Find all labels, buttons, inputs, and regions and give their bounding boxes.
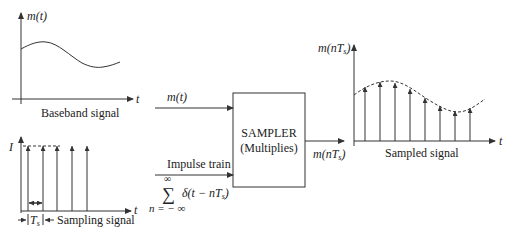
baseband-plot: m(t) t Baseband signal [12, 9, 140, 120]
sampler-box [233, 93, 305, 187]
baseband-caption: Baseband signal [41, 106, 120, 120]
sampler-subtitle: (Multiplies) [240, 141, 297, 155]
sampled-y-label: m(nTs) [318, 41, 350, 56]
period-label: Ts [30, 213, 40, 228]
sampled-caption: Sampled signal [385, 146, 459, 160]
baseband-y-label: m(t) [27, 9, 47, 23]
sampler-output: m(nTs) [305, 141, 345, 162]
sampling-diagram: m(t) t Baseband signal I Ts Sampling sig… [0, 0, 514, 240]
amplitude-label: I [8, 140, 14, 154]
sum-upper-limit: ∞ [164, 173, 171, 184]
delta-expression: δ(t − nTs) [182, 186, 229, 201]
sum-lower-limit: n = − ∞ [149, 202, 186, 214]
sampled-envelope [354, 81, 485, 112]
sampling-x-label: t [134, 203, 138, 217]
sampling-caption: Sampling signal [57, 213, 135, 227]
input-signal-label: m(t) [167, 90, 187, 104]
sum-symbol: ∑ [162, 184, 175, 204]
output-label: m(nTs) [313, 147, 345, 162]
sampler-title: SAMPLER [241, 126, 296, 140]
baseband-x-label: t [136, 92, 140, 106]
sampled-plot: m(nTs) t Sampled signal [318, 41, 503, 160]
sampling-plot: I Ts Sampling signal t [8, 137, 138, 228]
baseband-curve [21, 42, 120, 68]
impulse-train-label: Impulse train [167, 157, 231, 171]
sampler-inputs: m(t) Impulse train ∞ ∑ n = − ∞ δ(t − nTs… [149, 90, 233, 214]
impulse-arrows [28, 146, 87, 211]
sampler-block: SAMPLER (Multiplies) [233, 93, 305, 187]
sampled-x-label: t [499, 134, 503, 148]
